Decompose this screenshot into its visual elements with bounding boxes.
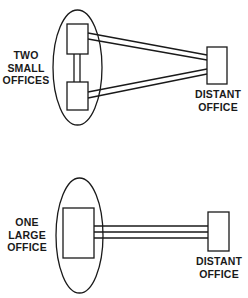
large-office-to-distant-link [94, 226, 208, 238]
label-line: ONE [0, 216, 54, 229]
label-line: DISTANT [191, 255, 247, 268]
label-line: OFFICE [190, 101, 246, 114]
label-line: LARGE [0, 229, 54, 242]
distant-office-label-bottom: DISTANT OFFICE [191, 255, 247, 280]
office-connection-diagram: TWO SMALL OFFICES DISTANT OFFICE ONE LAR… [0, 0, 248, 298]
label-line: OFFICE [0, 241, 54, 254]
small-office-lower-box [67, 82, 88, 110]
inter-office-link [74, 54, 80, 82]
distant-office-label-top: DISTANT OFFICE [190, 88, 246, 113]
distant-office-box-top [207, 47, 227, 84]
distant-office-box-bottom [208, 212, 229, 251]
large-office-box [63, 208, 94, 258]
small-office-upper-box [67, 24, 88, 54]
one-large-office-label: ONE LARGE OFFICE [0, 216, 54, 254]
upper-office-to-distant-link [88, 33, 207, 60]
label-line: DISTANT [190, 88, 246, 101]
label-line: TWO [0, 49, 52, 62]
label-line: SMALL [0, 62, 52, 75]
label-line: OFFICES [0, 74, 52, 87]
label-line: OFFICE [191, 268, 247, 281]
two-small-offices-label: TWO SMALL OFFICES [0, 49, 52, 87]
